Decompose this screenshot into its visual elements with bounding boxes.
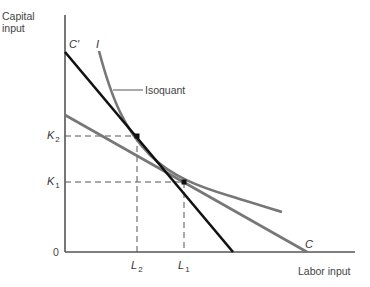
k2-subscript: 2: [55, 135, 59, 144]
k2-letter: K: [47, 129, 54, 141]
dashed-guides: [65, 136, 184, 252]
isoquant-i-label: I: [96, 38, 99, 50]
k1-letter: K: [47, 175, 54, 187]
c-label: C: [305, 238, 313, 250]
x-axis-label: Labor input: [298, 265, 351, 277]
isoquant-label: Isoquant: [145, 84, 185, 96]
y-axis-label: Capital input: [2, 10, 35, 34]
isoquant-curve: [99, 51, 282, 212]
k2-label: K2: [47, 129, 60, 146]
point-k1-l1: [182, 180, 187, 185]
l2-subscript: 2: [138, 265, 142, 274]
l2-letter: L: [131, 259, 137, 271]
y-axis-label-line2: input: [2, 22, 35, 34]
l1-letter: L: [178, 259, 184, 271]
isocost-line-c-prime: [65, 52, 233, 252]
k1-label: K1: [47, 175, 60, 192]
isoquant-cost-diagram: Capital input C' I Isoquant K2 K1 0 L2 L…: [0, 0, 370, 287]
l1-label: L1: [178, 259, 190, 276]
origin-label: 0: [53, 246, 59, 258]
l1-subscript: 1: [185, 265, 189, 274]
y-axis-label-line1: Capital: [2, 10, 35, 22]
point-k2-l2: [135, 134, 140, 139]
k1-subscript: 1: [55, 181, 59, 190]
c-prime-label: C': [69, 38, 79, 50]
l2-label: L2: [131, 259, 143, 276]
